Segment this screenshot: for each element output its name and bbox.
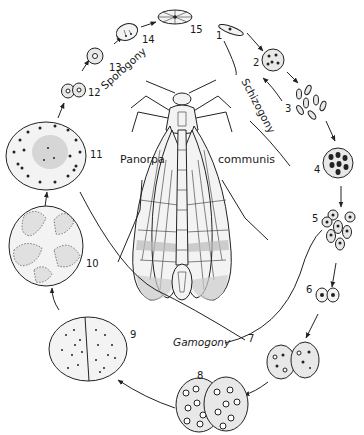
stage-6-paired-gamonts bbox=[316, 288, 339, 302]
stage-2-schizont bbox=[262, 49, 284, 71]
stage-number-6: 6 bbox=[306, 284, 312, 295]
stage-5-merozoites bbox=[322, 210, 355, 250]
arrow-2-to-3 bbox=[287, 72, 298, 83]
stage-number-2: 2 bbox=[253, 57, 259, 68]
stage-10-gamete-formation bbox=[9, 206, 83, 286]
arrow-7-to-8 bbox=[244, 382, 268, 395]
stage-3-merozoites bbox=[295, 84, 327, 120]
arrow-14-to-15 bbox=[141, 22, 156, 27]
stage-number-11: 11 bbox=[90, 149, 103, 160]
stage-4-schizont bbox=[323, 148, 353, 178]
stage-number-15: 15 bbox=[190, 24, 203, 35]
arrow-6-to-7 bbox=[306, 314, 318, 338]
arrow-5-to-6 bbox=[332, 263, 336, 287]
stage-number-4: 4 bbox=[314, 164, 320, 175]
phase-label-gamogony: Gamogony bbox=[173, 336, 231, 348]
arrow-8-to-9 bbox=[118, 380, 175, 408]
species-label: communis bbox=[218, 153, 275, 166]
genus-label: Panorpa bbox=[120, 153, 165, 166]
phase-label-schizogony: Schizogony bbox=[239, 76, 278, 135]
stage-15-spore bbox=[158, 10, 192, 24]
arrow-12-to-13 bbox=[82, 60, 89, 71]
stage-number-8: 8 bbox=[197, 370, 203, 381]
schizogony-divider bbox=[224, 41, 236, 75]
stage-12-zygote-pair bbox=[62, 83, 86, 98]
stage-8-large-gamonts bbox=[176, 377, 248, 432]
arrow-9-to-10 bbox=[52, 288, 59, 310]
stage-number-1: 1 bbox=[216, 30, 222, 41]
stage-number-12: 12 bbox=[88, 87, 101, 98]
panorpa-insect-illustration bbox=[118, 80, 268, 300]
stage-7-gamonts-association bbox=[267, 342, 319, 379]
stage-11-zygote-cyst bbox=[6, 122, 86, 190]
arrow-3-to-2 bbox=[263, 78, 282, 101]
life-cycle-diagram: Panorpa communis 15 1 2 bbox=[0, 0, 364, 435]
stage-number-7: 7 bbox=[248, 333, 254, 344]
stage-number-5: 5 bbox=[312, 213, 318, 224]
arrow-1-to-2 bbox=[247, 33, 263, 51]
arrow-10-to-11 bbox=[45, 192, 47, 207]
stage-13-sporoblast bbox=[87, 48, 103, 64]
arrow-3-to-4 bbox=[326, 121, 335, 141]
stage-number-9: 9 bbox=[130, 329, 136, 340]
arrow-11-to-12 bbox=[58, 103, 64, 118]
stage-number-3: 3 bbox=[285, 103, 291, 114]
phase-label-sporogony: Sporogony bbox=[98, 45, 148, 92]
stage-number-14: 14 bbox=[142, 34, 155, 45]
stage-9-gametocyst bbox=[49, 317, 127, 381]
stage-14-sporocyst bbox=[114, 21, 140, 44]
stage-number-10: 10 bbox=[86, 258, 99, 269]
